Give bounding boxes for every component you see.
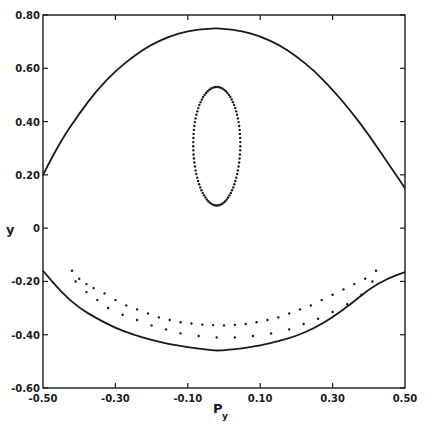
x-axis-ticks: -0.50-0.30-0.100.100.300.50 [29, 15, 418, 404]
island-dot [239, 133, 241, 135]
orbit-dot [234, 324, 236, 326]
x-tick-label: -0.10 [173, 393, 202, 404]
y-tick-label: -0.60 [11, 383, 40, 394]
orbit-dot [85, 283, 87, 285]
island-dot [237, 117, 239, 119]
island-dot [239, 141, 241, 143]
y-tick-label: 0.60 [15, 63, 40, 74]
orbit-dot [150, 324, 152, 326]
island-dot [197, 180, 199, 182]
island-dot [205, 92, 207, 94]
orbit-dot [270, 332, 272, 334]
island-dot [194, 117, 196, 119]
island-dot [234, 107, 236, 109]
island-dot [230, 192, 232, 194]
orbit-dot [353, 283, 355, 285]
island-dot [232, 186, 234, 188]
island-dot [192, 137, 194, 139]
x-axis-title: P y [213, 401, 228, 421]
orbit-dot [165, 328, 167, 330]
island-dot [193, 125, 195, 127]
island-dot [196, 110, 198, 112]
island-dot [238, 125, 240, 127]
x-tick-label: -0.30 [101, 393, 130, 404]
orbit-dot [107, 307, 109, 309]
orbit-dot [245, 323, 247, 325]
island-dot [198, 183, 200, 185]
orbit-dot [216, 336, 218, 338]
y-tick-label: -0.20 [11, 276, 40, 287]
island-dot [193, 161, 195, 163]
island-dot [204, 196, 206, 198]
island-dot [239, 137, 241, 139]
island-dot [231, 189, 233, 191]
island-dot [228, 94, 230, 96]
island-dot [238, 161, 240, 163]
island-dot [236, 173, 238, 175]
y-tick-label: 0.20 [15, 170, 40, 181]
island-dot [237, 169, 239, 171]
island-dot [196, 176, 198, 178]
orbit-dot [234, 336, 236, 338]
orbit-dot [125, 304, 127, 306]
island-dot [239, 153, 241, 155]
y-tick-label: 0.40 [15, 117, 40, 128]
orbit-dot [317, 318, 319, 320]
poincare-section-chart: -0.50-0.30-0.100.100.300.50 0.800.600.40… [0, 0, 430, 431]
island-dot [237, 121, 239, 123]
x-tick-label: 0.10 [248, 393, 273, 404]
island-dot [202, 192, 204, 194]
orbit-dot [197, 335, 199, 337]
island-dot [239, 145, 241, 147]
island-dot [198, 104, 200, 106]
island-dot [233, 104, 235, 106]
orbit-dot [169, 319, 171, 321]
x-tick-label: 0.30 [320, 393, 345, 404]
island-dot [203, 194, 205, 196]
orbit-dot [114, 299, 116, 301]
island-dot [239, 149, 241, 151]
x-axis-title-subscript: y [222, 411, 228, 421]
orbit-dot [78, 278, 80, 280]
boundary-curve [43, 28, 405, 188]
x-tick-label: 0.50 [393, 393, 418, 404]
orbit-dot [201, 323, 203, 325]
orbit-dot [364, 278, 366, 280]
orbit-dot [71, 270, 73, 272]
island-dot [238, 157, 240, 159]
orbit-dot [288, 328, 290, 330]
island-dot [227, 196, 229, 198]
island-dot [194, 165, 196, 167]
orbit-dot [136, 308, 138, 310]
orbit-dot [96, 299, 98, 301]
orbit-dot [299, 308, 301, 310]
island-dot [192, 149, 194, 151]
orbit-dot [342, 288, 344, 290]
island-dot [194, 121, 196, 123]
y-tick-label: 0.80 [15, 10, 40, 21]
island-dot [201, 98, 203, 100]
island-dot [193, 157, 195, 159]
orbit-dot [179, 332, 181, 334]
orbit-dot [331, 294, 333, 296]
orbit-dot [92, 287, 94, 289]
orbit-dot [255, 321, 257, 323]
island-dot [230, 98, 232, 100]
island-dot [203, 94, 205, 96]
island-dot [193, 129, 195, 131]
x-tick-label: -0.50 [29, 393, 58, 404]
orbit-dot [252, 335, 254, 337]
island-dot [192, 153, 194, 155]
orbit-dot [103, 292, 105, 294]
island-dot [238, 129, 240, 131]
island-dot [199, 101, 201, 103]
orbit-dot [158, 316, 160, 318]
orbit-dot [223, 324, 225, 326]
island-dot [194, 169, 196, 171]
orbit-dot [85, 291, 87, 293]
island-dot [235, 176, 237, 178]
orbit-dot [288, 312, 290, 314]
orbit-dot [147, 312, 149, 314]
island-dot [200, 189, 202, 191]
orbit-dot [346, 303, 348, 305]
